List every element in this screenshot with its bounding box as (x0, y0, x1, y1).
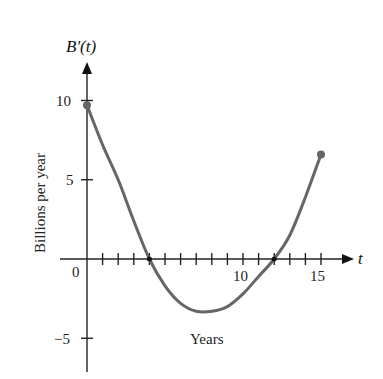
derivative-curve (87, 105, 321, 312)
x-tick-label-15: 15 (310, 268, 325, 284)
zero-crossing-point (147, 257, 152, 262)
start-point (83, 101, 91, 109)
y-axis-label: Billions per year (32, 153, 48, 253)
y-tick-label-5: 5 (66, 172, 74, 188)
x-axis-label: Years (190, 331, 224, 347)
x-axis-arrow-icon (342, 254, 354, 264)
derivative-chart: B′(t) 10 5 0 −5 10 15 t Years Billions p… (0, 0, 383, 379)
x-tick-label-10: 10 (233, 268, 248, 284)
y-tick-label-m5: −5 (54, 331, 70, 347)
chart-title: B′(t) (66, 37, 96, 56)
zero-crossing-point (272, 257, 277, 262)
y-axis-arrow-icon (82, 62, 92, 74)
x-axis-name: t (358, 249, 364, 268)
y-tick-label-0: 0 (72, 264, 80, 280)
end-point (317, 150, 325, 158)
y-tick-label-10: 10 (56, 93, 71, 109)
